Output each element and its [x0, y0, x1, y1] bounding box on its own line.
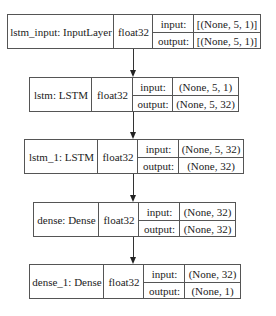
input-label: input:	[153, 15, 194, 32]
output-shape: (None, 5, 32)	[173, 96, 238, 111]
layer-node: dense_1: Densefloat32input:output:(None,…	[29, 264, 241, 299]
output-label: output:	[138, 158, 179, 173]
edge-line	[133, 112, 134, 133]
divider	[143, 282, 240, 283]
divider	[132, 95, 238, 96]
edge-line	[133, 174, 134, 196]
output-shape: [(None, 5, 1)]	[194, 33, 260, 48]
layer-name: lstm_1: LSTM	[25, 140, 98, 173]
divider	[91, 78, 92, 111]
output-shape: (None, 1)	[185, 283, 240, 298]
divider	[103, 265, 104, 298]
layer-dtype: float32	[98, 140, 138, 173]
divider	[137, 157, 243, 158]
input-label: input:	[144, 265, 185, 282]
layer-name: lstm_input: InputLayer	[8, 15, 114, 48]
output-label: output:	[153, 33, 194, 48]
output-label: output:	[133, 96, 173, 111]
divider	[113, 15, 114, 48]
arrow-down-icon	[130, 70, 136, 77]
output-shape: (None, 32)	[179, 158, 243, 173]
edge-line	[133, 237, 134, 258]
output-label: output:	[139, 221, 180, 236]
arrow-down-icon	[130, 195, 136, 202]
layer-name: dense_1: Dense	[30, 265, 104, 298]
input-shape: (None, 5, 32)	[179, 140, 243, 157]
layer-name: lstm: LSTM	[30, 78, 92, 111]
divider	[98, 203, 99, 236]
input-shape: (None, 32)	[180, 203, 235, 220]
input-label: input:	[138, 140, 179, 157]
input-shape: (None, 32)	[185, 265, 240, 282]
input-label: input:	[139, 203, 180, 220]
layer-node: lstm_1: LSTMfloat32input:output:(None, 5…	[24, 139, 244, 174]
divider	[97, 140, 98, 173]
layer-node: dense: Densefloat32input:output:(None, 3…	[33, 202, 236, 237]
layer-node: lstm: LSTMfloat32input:output:(None, 5, …	[29, 77, 239, 112]
layer-dtype: float32	[99, 203, 139, 236]
output-label: output:	[144, 283, 185, 298]
layer-dtype: float32	[104, 265, 144, 298]
divider	[138, 220, 235, 221]
output-shape: (None, 32)	[180, 221, 235, 236]
input-label: input:	[133, 78, 173, 95]
arrow-down-icon	[130, 257, 136, 264]
layer-node: lstm_input: InputLayerfloat32input:outpu…	[7, 14, 261, 49]
layer-dtype: float32	[92, 78, 133, 111]
input-shape: [(None, 5, 1)]	[194, 15, 260, 32]
edge-line	[133, 49, 134, 71]
input-shape: (None, 5, 1)	[173, 78, 238, 95]
layer-name: dense: Dense	[34, 203, 99, 236]
divider	[152, 32, 260, 33]
arrow-down-icon	[130, 132, 136, 139]
layer-dtype: float32	[114, 15, 153, 48]
